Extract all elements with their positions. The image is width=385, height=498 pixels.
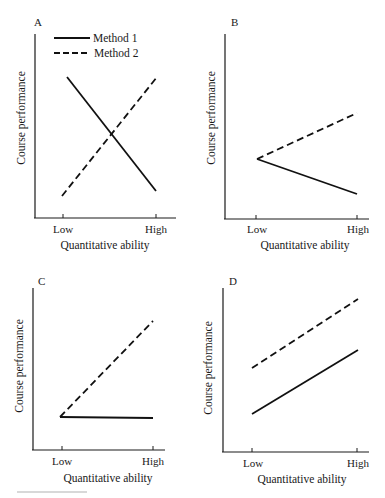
x-axis-label: Quantitative ability <box>60 239 149 252</box>
tick-label-high: High <box>347 457 370 469</box>
panel-d: D Low High Quantitative ability Course p… <box>202 275 370 486</box>
method-2-line <box>252 299 358 368</box>
method-2-line <box>62 77 157 196</box>
interaction-figure: A Method 1 Method 2 Low High Quantitativ… <box>0 0 385 498</box>
panel-letter-a: A <box>34 16 42 28</box>
panel-letter-b: B <box>231 16 238 28</box>
panel-letter-d: D <box>229 275 237 287</box>
panel-letter-c: C <box>38 275 45 287</box>
method-1-line <box>60 417 153 418</box>
legend-label-method-2: Method 2 <box>94 47 139 59</box>
legend-label-method-1: Method 1 <box>93 32 138 44</box>
tick-label-high: High <box>145 223 168 235</box>
panel-c: C Low High Quantitative ability Course p… <box>13 275 165 485</box>
y-axis-label: Course performance <box>15 71 28 165</box>
caption-fragment <box>17 491 87 493</box>
method-2-line <box>60 321 153 417</box>
method-2-line <box>257 113 357 159</box>
y-axis-label: Course performance <box>13 319 26 413</box>
y-axis-label: Course performance <box>205 71 218 165</box>
legend: Method 1 Method 2 <box>54 32 139 59</box>
method-1-line <box>257 159 357 194</box>
panel-a: A Method 1 Method 2 Low High Quantitativ… <box>15 16 176 252</box>
method-1-line <box>252 350 358 414</box>
tick-label-high: High <box>347 223 370 235</box>
tick-label-low: Low <box>52 455 72 467</box>
y-axis-label: Course performance <box>202 321 215 415</box>
x-axis-label: Quantitative ability <box>260 239 349 252</box>
tick-label-low: Low <box>53 223 73 235</box>
panel-b: B Low High Quantitative ability Course p… <box>205 16 370 252</box>
x-axis-label: Quantitative ability <box>257 473 346 486</box>
tick-label-low: Low <box>243 457 263 469</box>
tick-label-high: High <box>142 455 165 467</box>
tick-label-low: Low <box>247 223 267 235</box>
x-axis-label: Quantitative ability <box>63 472 152 485</box>
